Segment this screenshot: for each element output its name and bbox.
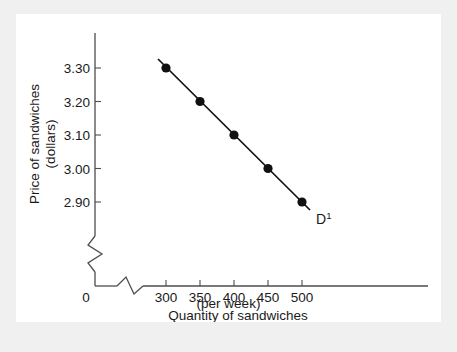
x-axis-break-zigzag (117, 277, 143, 294)
chart-plot-panel: 3.30 3.20 3.10 3.00 2.90 Price of sandwi… (16, 14, 441, 322)
y-tick-label-2.90: 2.90 (64, 195, 90, 210)
data-point-450 (263, 164, 272, 173)
y-tick-label-3.20: 3.20 (64, 95, 90, 110)
demand-curve-label: D1 (316, 210, 331, 227)
x-axis-title-line2: (per week) (197, 296, 261, 311)
y-tick-label-3.00: 3.00 (64, 162, 90, 177)
data-point-500 (297, 197, 306, 206)
y-axis-title-line2: (dollars) (43, 120, 58, 169)
y-tick-label-3.30: 3.30 (64, 61, 90, 76)
demand-curve-label-text: D (316, 211, 326, 227)
demand-curve-chart: 3.30 3.20 3.10 3.00 2.90 Price of sandwi… (16, 14, 441, 322)
y-axis-break-zigzag (88, 236, 102, 272)
y-tick-label-3.10: 3.10 (64, 128, 90, 143)
data-point-400 (229, 130, 238, 139)
y-axis-title-line1: Price of sandwiches (27, 84, 42, 204)
demand-curve-label-superscript: 1 (326, 210, 331, 221)
x-axis-title-line2-wrap: (per week) (0, 296, 457, 311)
data-point-350 (195, 97, 204, 106)
data-point-300 (161, 63, 170, 72)
figure-root: 3.30 3.20 3.10 3.00 2.90 Price of sandwi… (0, 0, 457, 352)
